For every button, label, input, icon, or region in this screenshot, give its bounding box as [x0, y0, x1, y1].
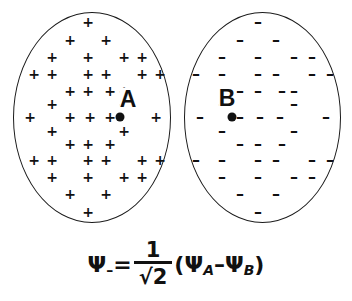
minus-sign: – [254, 49, 262, 65]
minus-sign: – [276, 109, 284, 125]
fraction-numerator: 1 [140, 239, 167, 261]
plus-sign: + [118, 170, 130, 184]
minus-sign: – [308, 66, 316, 82]
plus-sign: + [82, 205, 94, 219]
minus-sign: – [236, 109, 244, 125]
minus-sign: – [218, 169, 226, 185]
minus-sign: – [254, 204, 262, 220]
close-paren: ) [254, 254, 264, 276]
minus-sign: – [278, 83, 286, 99]
atom-label-a: A [119, 88, 137, 111]
plus-sign: + [64, 187, 76, 201]
nucleus-a [116, 113, 125, 122]
minus-sign: – [326, 66, 334, 82]
plus-sign: + [82, 153, 94, 167]
minus-sign: – [254, 14, 262, 30]
plus-sign: + [104, 110, 116, 124]
minus-sign: – [326, 152, 334, 168]
psi-a-subscript: A [203, 263, 214, 277]
orbital-diagram: ++++++++++++++++++++++++++++++++++++++++… [0, 0, 352, 301]
minus-sign: – [254, 83, 262, 99]
minus-sign: – [290, 49, 298, 65]
plus-sign: + [150, 110, 162, 124]
minus-sign: – [290, 96, 298, 112]
minus-sign: – [254, 169, 262, 185]
minus-sign: – [256, 109, 264, 125]
plus-sign: + [136, 170, 148, 184]
minus-sign: – [290, 123, 298, 139]
minus-sign: – [218, 66, 226, 82]
minus-sign: – [308, 169, 316, 185]
plus-sign: + [136, 153, 148, 167]
plus-sign: + [82, 15, 94, 29]
minus-sign: – [192, 152, 200, 168]
open-paren: ( [174, 254, 184, 276]
minus-sign: – [272, 32, 280, 48]
fraction-denominator: √2 [134, 264, 173, 289]
plus-sign: + [100, 33, 112, 47]
plus-sign: + [46, 97, 58, 111]
plus-sign: + [46, 153, 58, 167]
plus-sign: + [82, 84, 94, 98]
minus-sign: – [322, 109, 330, 125]
plus-sign: + [82, 50, 94, 64]
plus-sign: + [28, 67, 40, 81]
minus-sign: – [290, 169, 298, 185]
plus-sign: + [118, 124, 130, 138]
minus-sign: – [272, 186, 280, 202]
minus-sign: – [254, 152, 262, 168]
plus-sign: + [24, 110, 36, 124]
minus-sign: – [236, 32, 244, 48]
plus-sign: + [82, 137, 94, 151]
psi-b-symbol: Ψ [225, 254, 244, 276]
one-over-root-two-fraction: 1 √2 [134, 239, 173, 289]
minus-operator: – [214, 254, 225, 276]
plus-sign: + [64, 137, 76, 151]
plus-sign: + [100, 153, 112, 167]
nucleus-b [228, 113, 237, 122]
minus-sign: – [272, 152, 280, 168]
minus-sign: – [272, 66, 280, 82]
plus-sign: + [46, 170, 58, 184]
equation: Ψ–= 1 √2 (ΨA–ΨB) [88, 240, 265, 290]
plus-sign: + [118, 50, 130, 64]
plus-sign: + [154, 153, 166, 167]
psi-a-symbol: Ψ [184, 254, 203, 276]
minus-sign: – [236, 136, 244, 152]
minus-sign: – [236, 83, 244, 99]
radical-icon: √ [139, 265, 153, 289]
minus-sign: – [218, 49, 226, 65]
psi-minus-subscript: – [106, 263, 113, 277]
plus-sign: + [104, 137, 116, 151]
plus-sign: + [64, 33, 76, 47]
minus-sign: – [218, 123, 226, 139]
plus-sign: + [46, 50, 58, 64]
plus-sign: + [46, 67, 58, 81]
plus-sign: + [100, 187, 112, 201]
psi-minus-symbol: Ψ [88, 254, 107, 276]
wavefunction-formula: Ψ–= 1 √2 (ΨA–ΨB) [0, 231, 352, 299]
psi-b-subscript: B [244, 263, 255, 277]
minus-sign: – [196, 109, 204, 125]
equals-sign: = [113, 254, 131, 276]
minus-sign: – [308, 152, 316, 168]
minus-sign: – [218, 152, 226, 168]
plus-sign: + [136, 67, 148, 81]
plus-sign: + [46, 124, 58, 138]
plus-sign: + [136, 50, 148, 64]
plus-sign: + [64, 110, 76, 124]
plus-sign: + [84, 110, 96, 124]
plus-sign: + [104, 84, 116, 98]
plus-sign: + [100, 67, 112, 81]
atom-label-b: B [218, 87, 236, 110]
minus-sign: – [236, 186, 244, 202]
radicand-value: 2 [153, 265, 168, 289]
plus-sign: + [64, 84, 76, 98]
plus-sign: + [154, 67, 166, 81]
plus-sign: + [82, 170, 94, 184]
plus-sign: + [28, 153, 40, 167]
minus-sign: – [308, 49, 316, 65]
minus-sign: – [192, 66, 200, 82]
plus-sign: + [82, 67, 94, 81]
minus-sign: – [254, 66, 262, 82]
